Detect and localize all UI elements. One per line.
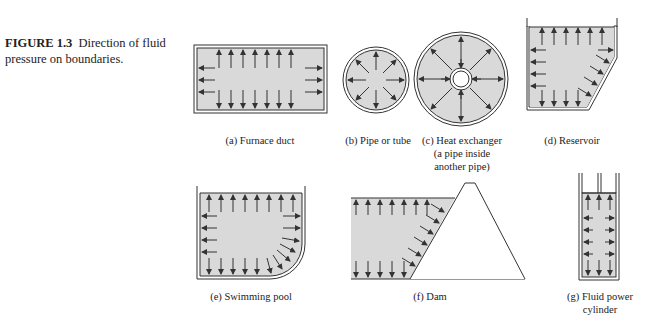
- label-heat-exchanger-line3: another pipe): [416, 160, 508, 173]
- dam-diagram: [351, 183, 525, 279]
- label-cylinder-line1: (g) Fluid power: [558, 290, 642, 303]
- pipe-diagram: [343, 47, 409, 113]
- swimming-pool-diagram: [197, 186, 305, 279]
- label-cylinder-line2: cylinder: [558, 303, 642, 316]
- label-fluid-power-cylinder: (g) Fluid power cylinder: [558, 290, 642, 316]
- fluid-power-cylinder-diagram: [579, 173, 619, 280]
- label-pipe-or-tube: (b) Pipe or tube: [336, 134, 420, 147]
- reservoir-diagram: [527, 18, 617, 110]
- label-furnace-duct: (a) Furnace duct: [210, 134, 310, 147]
- label-heat-exchanger-line2: (a pipe inside: [416, 147, 508, 160]
- label-heat-exchanger: (c) Heat exchanger (a pipe inside anothe…: [416, 134, 508, 173]
- label-swimming-pool: (e) Swimming pool: [196, 290, 306, 303]
- label-heat-exchanger-line1: (c) Heat exchanger: [416, 134, 508, 147]
- heat-exchanger-diagram: [414, 32, 508, 126]
- pressure-diagrams: [0, 0, 654, 323]
- label-dam: (f) Dam: [400, 290, 460, 303]
- furnace-duct-diagram: [194, 45, 327, 113]
- label-reservoir: (d) Reservoir: [530, 134, 614, 147]
